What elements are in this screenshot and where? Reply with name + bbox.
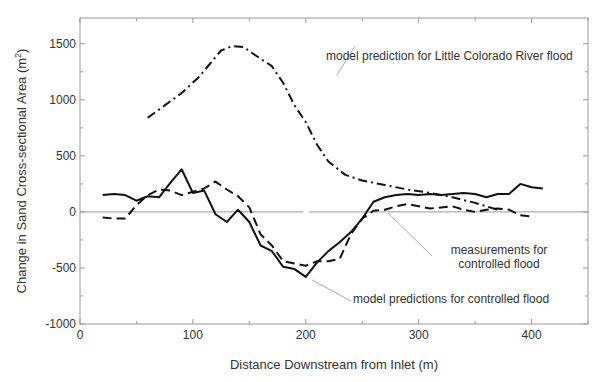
- leader-line-model: [312, 280, 351, 301]
- y-tick-label: 1500: [49, 37, 76, 51]
- y-tick-label: 500: [56, 149, 76, 163]
- plot-frame: [80, 18, 588, 324]
- x-tick-label: 0: [77, 328, 84, 342]
- annotation-measurements-line2: controlled flood: [458, 257, 539, 271]
- annotation-lcr-flood: model prediction for Little Colorado Riv…: [326, 49, 573, 63]
- y-tick-label: -500: [52, 261, 76, 275]
- leader-line-measurements: [388, 213, 432, 256]
- annotation-model-controlled: model predictions for controlled flood: [353, 292, 549, 306]
- x-tick-label: 300: [409, 328, 429, 342]
- x-tick-label: 200: [296, 328, 316, 342]
- chart: 0100200300400-1000-500050010001500 model…: [0, 0, 605, 382]
- x-tick-label: 100: [183, 328, 203, 342]
- y-tick-label: 1000: [49, 93, 76, 107]
- y-tick-label: 0: [69, 205, 76, 219]
- y-axis-label: Change in Sand Cross-sectional Area (m2): [13, 49, 29, 294]
- x-axis-label: Distance Downstream from Inlet (m): [230, 357, 438, 372]
- y-tick-label: -1000: [45, 317, 76, 331]
- x-tick-label: 400: [522, 328, 542, 342]
- series-dashdot: [148, 46, 498, 210]
- annotation-measurements-line1: measurements for: [451, 243, 548, 257]
